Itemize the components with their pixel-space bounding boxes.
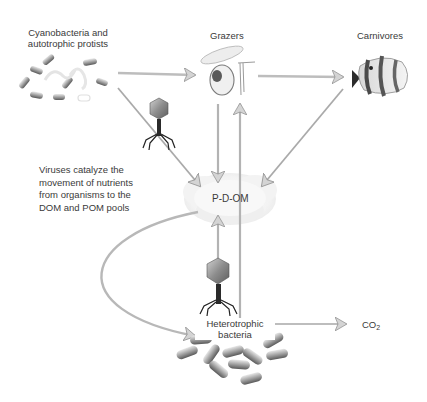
virus-icon-lower bbox=[200, 258, 237, 316]
grazers-illustration bbox=[199, 42, 255, 95]
pdom-label: P-D-OM bbox=[212, 193, 249, 204]
arrow-carnivores-to-pdom bbox=[262, 89, 343, 186]
arrow-grazers-to-carnivores bbox=[258, 76, 343, 77]
heterotrophic-label-line1: Heterotrophic bbox=[195, 318, 275, 329]
annotation-line3: from organisms to the bbox=[39, 189, 133, 202]
grazers-label: Grazers bbox=[210, 30, 244, 41]
cyanobacteria-label: Cyanobacteria and autotrophic protists bbox=[18, 27, 118, 49]
cyanobacteria-label-line1: Cyanobacteria and bbox=[18, 27, 118, 38]
cyanobacteria-illustration bbox=[18, 53, 109, 101]
heterotrophic-bacteria-label: Heterotrophic bacteria bbox=[195, 318, 275, 340]
co2-subscript: 2 bbox=[376, 324, 380, 331]
annotation-line2: movement of nutrients bbox=[39, 177, 133, 190]
fish-illustration bbox=[352, 56, 408, 96]
annotation-line4: DOM and POM pools bbox=[39, 202, 133, 215]
heterotrophic-label-line2: bacteria bbox=[195, 329, 275, 340]
cyanobacteria-label-line2: autotrophic protists bbox=[18, 38, 118, 49]
co2-base: CO bbox=[362, 319, 376, 330]
annotation-line1: Viruses catalyze the bbox=[39, 164, 133, 177]
carnivores-label: Carnivores bbox=[357, 30, 403, 41]
arrow-pdom-to-bacteria bbox=[101, 212, 198, 336]
virus-annotation: Viruses catalyze the movement of nutrien… bbox=[39, 164, 133, 214]
arrow-cyano-to-grazers bbox=[118, 73, 195, 75]
co2-label: CO2 bbox=[362, 319, 380, 333]
